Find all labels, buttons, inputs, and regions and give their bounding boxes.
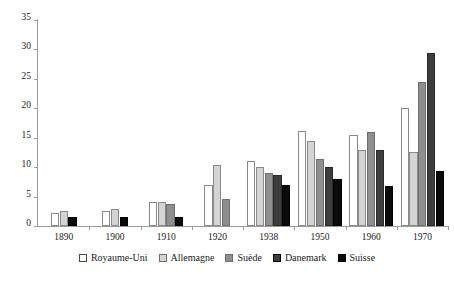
x-axis-tick-mark: [346, 226, 347, 230]
bar-group: [51, 20, 77, 226]
bar-royaume-uni-1900: [102, 211, 110, 226]
bar-group: [247, 20, 290, 226]
bar-group: [102, 20, 128, 226]
bar-allemagne-1920: [213, 165, 221, 226]
legend-swatch-icon: [273, 254, 281, 262]
y-axis-tick-label: 20: [22, 101, 32, 111]
x-axis-label-1970: 1970: [397, 233, 448, 243]
bar-group: [349, 20, 392, 226]
bar-royaume-uni-1950: [298, 131, 306, 226]
plot-area: [38, 20, 448, 226]
x-axis-tick-mark: [448, 226, 449, 230]
bar-allemagne-1900: [111, 209, 119, 226]
bar-suisse-1970: [436, 171, 444, 226]
y-axis-tick-label: 30: [22, 42, 32, 52]
legend-item-royaume-uni: Royaume-Uni: [79, 253, 148, 263]
bar-suisse-1900: [120, 217, 128, 226]
bar-allemagne-1938: [256, 167, 264, 226]
bar-allemagne-1970: [409, 152, 417, 226]
x-axis-tick-mark: [397, 226, 398, 230]
bar-group: [401, 20, 444, 226]
legend-item-danemark: Danemark: [273, 253, 327, 263]
y-axis-tick-mark: [34, 226, 38, 227]
x-axis-tick-mark: [89, 226, 90, 230]
bar-su-de-1950: [316, 159, 324, 226]
legend-item-suisse: Suisse: [338, 253, 376, 263]
y-axis-tick-label: 35: [22, 13, 32, 23]
x-axis-tick-mark: [141, 226, 142, 230]
legend-item-allemagne: Allemagne: [159, 253, 215, 263]
bar-chart: 05101520253035 1890190019101920193819501…: [0, 0, 454, 282]
bar-suisse-1910: [175, 217, 183, 226]
x-axis-label-1938: 1938: [243, 233, 294, 243]
y-axis-tick-label: 25: [22, 72, 32, 82]
bar-allemagne-1910: [158, 202, 166, 226]
legend-swatch-icon: [225, 254, 233, 262]
bar-su-de-1920: [222, 199, 230, 226]
y-axis-tick-label: 0: [26, 219, 31, 229]
x-axis-label-1960: 1960: [346, 233, 397, 243]
legend-label: Suisse: [350, 253, 376, 263]
legend-swatch-icon: [338, 254, 346, 262]
x-axis-tick-mark: [243, 226, 244, 230]
x-axis-tick-mark: [192, 226, 193, 230]
chart-legend: Royaume-UniAllemagneSuèdeDanemarkSuisse: [0, 253, 454, 263]
bar-danemark-1960: [376, 150, 384, 226]
bar-allemagne-1950: [307, 141, 315, 226]
bar-danemark-1950: [325, 167, 333, 226]
bar-suisse-1950: [333, 179, 341, 226]
bar-royaume-uni-1938: [247, 161, 255, 226]
bar-royaume-uni-1970: [401, 108, 409, 226]
bar-allemagne-1890: [60, 211, 68, 226]
legend-swatch-icon: [159, 254, 167, 262]
bar-group: [149, 20, 184, 226]
x-axis-label-1950: 1950: [294, 233, 345, 243]
bar-suisse-1890: [68, 217, 76, 226]
x-axis-label-1910: 1910: [141, 233, 192, 243]
x-axis-label-1920: 1920: [192, 233, 243, 243]
bar-royaume-uni-1910: [149, 202, 157, 226]
bar-su-de-1938: [265, 173, 273, 226]
bar-suisse-1960: [385, 186, 393, 226]
bar-group: [298, 20, 341, 226]
bar-danemark-1938: [273, 175, 281, 226]
legend-label: Danemark: [285, 253, 327, 263]
bar-royaume-uni-1920: [204, 185, 212, 226]
bar-royaume-uni-1960: [349, 135, 357, 226]
y-axis-tick-label: 15: [22, 131, 32, 141]
legend-swatch-icon: [79, 254, 87, 262]
bar-su-de-1970: [418, 82, 426, 226]
bar-allemagne-1960: [358, 150, 366, 227]
legend-label: Suède: [237, 253, 261, 263]
bar-danemark-1970: [427, 53, 435, 226]
y-axis-tick-label: 5: [26, 190, 31, 200]
y-axis-tick-label: 10: [22, 160, 32, 170]
x-axis-label-1890: 1890: [38, 233, 89, 243]
legend-label: Royaume-Uni: [91, 253, 148, 263]
x-axis-tick-mark: [294, 226, 295, 230]
x-axis-label-1900: 1900: [89, 233, 140, 243]
legend-label: Allemagne: [171, 253, 215, 263]
bar-group: [204, 20, 230, 226]
bar-suisse-1938: [282, 185, 290, 226]
bar-su-de-1960: [367, 132, 375, 226]
bar-royaume-uni-1890: [51, 213, 59, 226]
bar-su-de-1910: [166, 204, 174, 226]
legend-item-su-de: Suède: [225, 253, 261, 263]
